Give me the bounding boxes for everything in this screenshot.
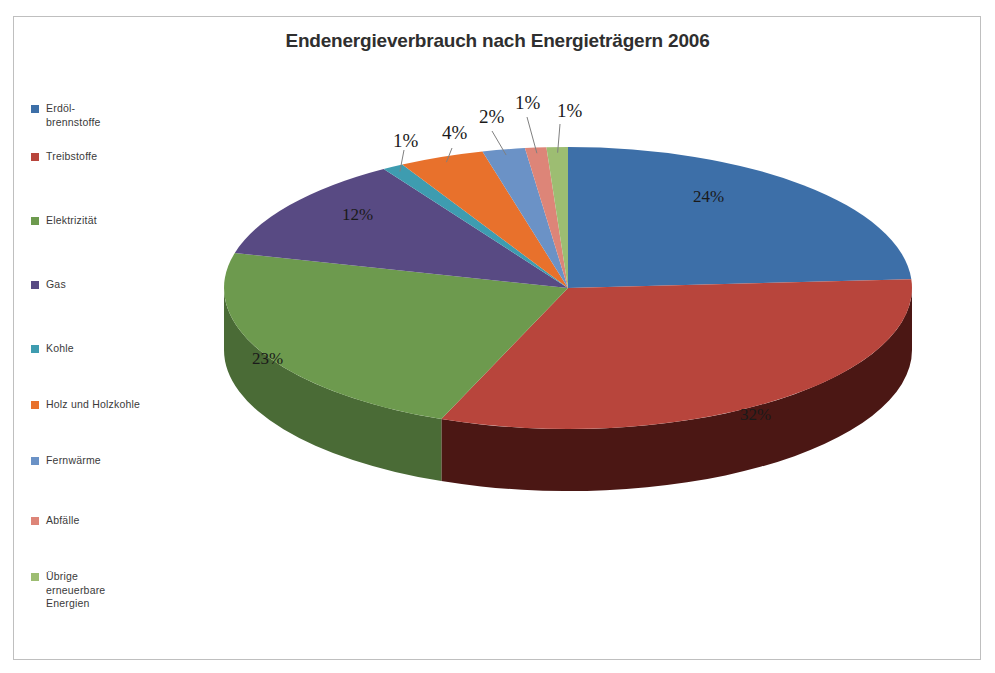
chart-title: Endenergieverbrauch nach Energieträgern …: [0, 30, 995, 52]
legend-swatch-holz-und-holzkohle: [31, 401, 39, 409]
legend-item-fernwaerme[interactable]: Fernwärme: [31, 454, 101, 468]
data-label-uebrige: 1%: [557, 100, 582, 122]
legend-swatch-gas: [31, 281, 39, 289]
legend-label-gas: Gas: [46, 278, 66, 292]
legend-swatch-abfaelle: [31, 517, 39, 525]
data-label-treibstoffe: 32%: [740, 405, 771, 425]
legend-swatch-treibstoffe: [31, 153, 39, 161]
legend-swatch-elektrizitaet: [31, 217, 39, 225]
legend-item-uebrige-erneuerbare-energien[interactable]: Übrige erneuerbare Energien: [31, 570, 105, 611]
legend-item-gas[interactable]: Gas: [31, 278, 66, 292]
legend-item-kohle[interactable]: Kohle: [31, 342, 74, 356]
legend-swatch-erdoelbrennstoffe: [31, 105, 39, 113]
legend-label-kohle: Kohle: [46, 342, 74, 356]
legend-item-abfaelle[interactable]: Abfälle: [31, 514, 80, 528]
legend-swatch-kohle: [31, 345, 39, 353]
legend-label-fernwaerme: Fernwärme: [46, 454, 101, 468]
data-label-gas: 12%: [342, 205, 373, 225]
legend-item-erdoelbrennstoffe[interactable]: Erdöl- brennstoffe: [31, 102, 101, 129]
legend-label-erdoelbrennstoffe: Erdöl- brennstoffe: [46, 102, 101, 129]
data-label-abfaelle: 1%: [515, 92, 540, 114]
chart-screenshot: Endenergieverbrauch nach Energieträgern …: [0, 0, 995, 673]
legend-item-treibstoffe[interactable]: Treibstoffe: [31, 150, 97, 164]
legend-swatch-fernwaerme: [31, 457, 39, 465]
data-label-elektrizitaet: 23%: [252, 349, 283, 369]
legend-label-abfaelle: Abfälle: [46, 514, 80, 528]
legend-label-elektrizitaet: Elektrizität: [46, 214, 97, 228]
data-label-kohle: 1%: [393, 130, 418, 152]
data-label-erdoelbrennstoffe: 24%: [693, 187, 724, 207]
legend-item-elektrizitaet[interactable]: Elektrizität: [31, 214, 97, 228]
legend-swatch-uebrige-erneuerbare-energien: [31, 573, 39, 581]
legend-label-uebrige-erneuerbare-energien: Übrige erneuerbare Energien: [46, 570, 105, 611]
legend-item-holz-und-holzkohle[interactable]: Holz und Holzkohle: [31, 398, 140, 412]
legend-label-holz-und-holzkohle: Holz und Holzkohle: [46, 398, 140, 412]
legend-label-treibstoffe: Treibstoffe: [46, 150, 97, 164]
data-label-holz: 4%: [442, 122, 467, 144]
data-label-fernwaerme: 2%: [479, 106, 504, 128]
